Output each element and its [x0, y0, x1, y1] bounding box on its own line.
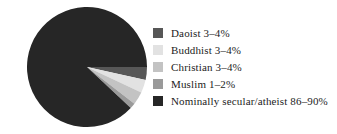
- legend-label-buddhist: Buddhist 3–4%: [171, 44, 241, 56]
- legend-swatch-secular: [153, 96, 163, 106]
- legend-swatch-buddhist: [153, 45, 163, 55]
- legend-label-secular: Nominally secular/atheist 86–90%: [171, 95, 328, 107]
- chart-legend: Daoist 3–4% Buddhist 3–4% Christian 3–4%…: [153, 24, 337, 110]
- legend-item-secular[interactable]: Nominally secular/atheist 86–90%: [153, 93, 337, 110]
- legend-label-muslim: Muslim 1–2%: [171, 78, 235, 90]
- legend-item-christian[interactable]: Christian 3–4%: [153, 58, 337, 75]
- pie-chart-plot: [27, 7, 147, 127]
- pie-chart-svg: [27, 7, 147, 127]
- legend-swatch-daoist: [153, 28, 163, 38]
- legend-item-daoist[interactable]: Daoist 3–4%: [153, 24, 337, 41]
- pie-chart-figure: Daoist 3–4% Buddhist 3–4% Christian 3–4%…: [0, 0, 337, 134]
- legend-swatch-christian: [153, 62, 163, 72]
- legend-item-buddhist[interactable]: Buddhist 3–4%: [153, 41, 337, 58]
- legend-swatch-muslim: [153, 79, 163, 89]
- legend-item-muslim[interactable]: Muslim 1–2%: [153, 76, 337, 93]
- legend-label-christian: Christian 3–4%: [171, 61, 242, 73]
- pie-slice-group: [27, 7, 147, 127]
- legend-label-daoist: Daoist 3–4%: [171, 27, 230, 39]
